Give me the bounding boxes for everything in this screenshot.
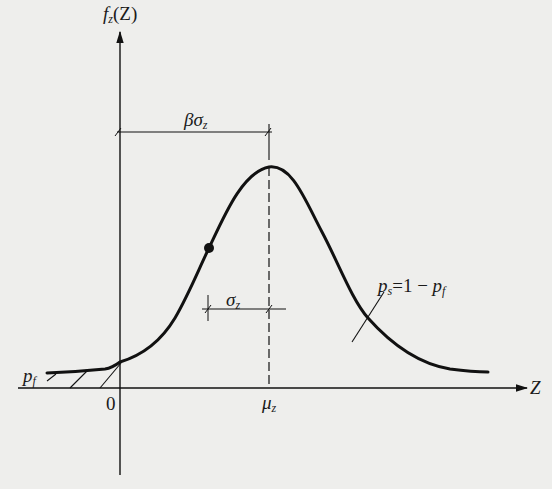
x-axis-label: Z	[530, 378, 541, 397]
inflection-point	[204, 243, 214, 253]
mean-label: μz	[262, 393, 276, 414]
beta-sigma-label: βσz	[184, 110, 208, 131]
pf-label: pf	[23, 366, 36, 387]
reliability-diagram: fz(Z) Z 0 μz βσz σz pf ps=1 − pf	[0, 0, 552, 489]
origin-label: 0	[106, 394, 116, 413]
sigma-label: σz	[226, 290, 240, 311]
diagram-canvas	[0, 0, 552, 489]
y-axis-label: fz(Z)	[103, 4, 137, 25]
density-curve	[47, 167, 488, 373]
ps-label: ps=1 − pf	[378, 276, 445, 297]
